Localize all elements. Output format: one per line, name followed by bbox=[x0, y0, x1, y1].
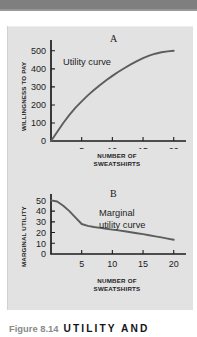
figure-caption-number: Figure 8.14 bbox=[9, 323, 59, 334]
b-y-tick-30: 30 bbox=[36, 217, 46, 227]
b-y-tick-40: 40 bbox=[36, 206, 46, 216]
panel-top-edge bbox=[7, 26, 193, 27]
a-y-tick-300: 300 bbox=[31, 82, 46, 92]
chart-a-panel-letter: A bbox=[110, 33, 117, 44]
a-y-tick-400: 400 bbox=[31, 64, 46, 74]
figure-caption-title: UTILITY AND bbox=[64, 323, 150, 334]
chart-b-panel-letter: B bbox=[110, 188, 117, 199]
panel-left-edge bbox=[7, 26, 8, 310]
b-y-tick-0: 0 bbox=[41, 249, 46, 259]
b-x-tick-5: 5 bbox=[79, 259, 84, 269]
chart-a-utility-curve: 0100200300400500 5101520 bbox=[14, 34, 189, 149]
chart-a-x-axis-title-line1: NUMBER OF bbox=[97, 152, 136, 159]
chart-b-curve-annotation: Marginal utility curve bbox=[99, 208, 146, 231]
chart-b-x-axis-title-line1: NUMBER OF bbox=[97, 277, 136, 284]
a-y-tick-0: 0 bbox=[41, 136, 46, 146]
figure-caption: Figure 8.14UTILITY AND bbox=[9, 318, 149, 336]
chart-b-annotation-line1: Marginal bbox=[99, 208, 135, 218]
chart-b-svg: 01020304050 5101520 bbox=[14, 188, 189, 274]
b-y-tick-10: 10 bbox=[36, 239, 46, 249]
chart-a-x-tick-labels: 5101520 bbox=[79, 146, 179, 150]
chart-a-axis-lines bbox=[51, 40, 186, 141]
a-x-tick-20: 20 bbox=[169, 146, 179, 150]
b-y-tick-50: 50 bbox=[36, 196, 46, 206]
chart-a-y-tick-labels: 0100200300400500 bbox=[31, 46, 46, 146]
chart-b-y-tick-labels: 01020304050 bbox=[36, 196, 46, 260]
a-x-tick-15: 15 bbox=[138, 146, 148, 150]
a-y-tick-200: 200 bbox=[31, 100, 46, 110]
a-y-tick-100: 100 bbox=[31, 118, 46, 128]
chart-b-x-axis-title-line2: SWEATSHIRTS bbox=[94, 285, 141, 292]
chart-a-y-axis-title: WILLINGNESS TO PAY bbox=[20, 62, 27, 131]
figure-page: 0100200300400500 5101520 WILLINGNESS TO … bbox=[0, 0, 197, 337]
b-x-tick-10: 10 bbox=[107, 259, 117, 269]
b-x-tick-20: 20 bbox=[169, 259, 179, 269]
b-x-tick-15: 15 bbox=[138, 259, 148, 269]
chart-a-x-axis-title: NUMBER OF SWEATSHIRTS bbox=[79, 152, 155, 167]
chart-b-x-axis-title: NUMBER OF SWEATSHIRTS bbox=[79, 277, 155, 292]
a-x-tick-10: 10 bbox=[107, 146, 117, 150]
chart-b-y-axis-title: MARGINAL UTILITY bbox=[20, 206, 27, 267]
chart-b-x-tick-labels: 5101520 bbox=[79, 259, 179, 269]
top-banner-shade bbox=[0, 9, 197, 11]
chart-a-svg: 0100200300400500 5101520 bbox=[14, 34, 189, 149]
chart-a-curve-annotation: Utility curve bbox=[63, 57, 111, 69]
chart-a-x-axis-title-line2: SWEATSHIRTS bbox=[94, 160, 141, 167]
a-y-tick-500: 500 bbox=[31, 46, 46, 56]
a-x-tick-5: 5 bbox=[79, 146, 84, 150]
chart-b-marginal-utility-curve: 01020304050 5101520 bbox=[14, 188, 189, 274]
b-y-tick-20: 20 bbox=[36, 228, 46, 238]
chart-b-annotation-line2: utility curve bbox=[99, 220, 146, 230]
